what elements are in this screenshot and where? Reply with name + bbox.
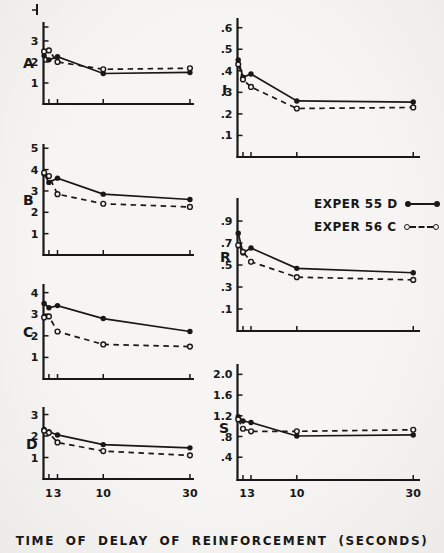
marker-open-circle xyxy=(294,275,299,280)
series-line-exper-56c xyxy=(238,245,413,280)
marker-filled-circle xyxy=(55,432,60,437)
marker-filled-circle xyxy=(187,197,192,202)
marker-open-circle xyxy=(47,174,52,179)
ytick-label: 3 xyxy=(31,409,39,422)
xtick-label: 10 xyxy=(96,487,112,500)
ytick-label: .1 xyxy=(221,303,233,316)
marker-open-circle xyxy=(249,429,254,434)
ytick-label: .2 xyxy=(221,108,233,121)
marker-open-circle xyxy=(411,277,416,282)
legend-sample-solid-line xyxy=(405,201,440,207)
marker-filled-circle xyxy=(248,71,253,76)
ytick-label: 3 xyxy=(31,308,39,321)
marker-open-circle xyxy=(411,105,416,110)
marker-open-circle xyxy=(188,205,193,210)
open-circle-icon xyxy=(433,224,439,230)
marker-open-circle xyxy=(42,428,47,433)
ytick-label: .1 xyxy=(221,129,233,142)
ytick-label: .4 xyxy=(221,451,233,464)
panel-label-D: D xyxy=(26,436,38,452)
panel-B: 12345B xyxy=(23,142,194,256)
marker-open-circle xyxy=(55,329,60,334)
series-line-exper-55d xyxy=(44,303,190,331)
marker-open-circle xyxy=(294,106,299,111)
marker-filled-circle xyxy=(101,191,106,196)
marker-open-circle xyxy=(188,66,193,71)
panel-I: .1.2.3.4.5.6I xyxy=(221,18,420,158)
marker-open-circle xyxy=(249,85,254,90)
ytick-label: 1 xyxy=(31,351,39,364)
marker-open-circle xyxy=(42,170,47,175)
delay-of-reinforcement-charts: 123A12345B1234C123D.1.2.3.4.5.6I.1.3.5.7… xyxy=(0,0,444,553)
series-line-exper-55d xyxy=(44,56,190,74)
legend-item-exper-55d: EXPER 55 D xyxy=(314,195,440,213)
series-line-exper-56c xyxy=(44,173,190,207)
marker-filled-circle xyxy=(101,316,106,321)
marker-filled-circle xyxy=(55,303,60,308)
panel-label-I: I xyxy=(222,82,227,98)
marker-open-circle xyxy=(241,426,246,431)
scanned-figure-page: 123A12345B1234C123D.1.2.3.4.5.6I.1.3.5.7… xyxy=(0,0,444,553)
ytick-label: 2 xyxy=(31,206,39,219)
legend-item-exper-56c: EXPER 56 C xyxy=(314,218,440,236)
marker-open-circle xyxy=(101,342,106,347)
xtick-label: 3 xyxy=(247,487,255,500)
series-line-exper-55d xyxy=(238,417,413,436)
dashed-line-icon xyxy=(410,226,433,228)
marker-filled-circle xyxy=(46,305,51,310)
legend: EXPER 55 D EXPER 56 C xyxy=(314,195,440,241)
marker-open-circle xyxy=(188,344,193,349)
xtick-label: 10 xyxy=(289,487,305,500)
marker-open-circle xyxy=(42,49,47,54)
marker-open-circle xyxy=(42,315,47,320)
panel-S: .4.81.21.62.0S xyxy=(213,364,420,481)
x-axis-caption: TIME OF DELAY OF REINFORCEMENT (SECONDS) xyxy=(0,534,444,548)
xtick-labels-right: 131030 xyxy=(239,487,421,500)
marker-open-circle xyxy=(294,429,299,434)
legend-label-exper-55d: EXPER 55 D xyxy=(314,197,398,211)
marker-filled-circle xyxy=(46,57,51,62)
xtick-labels-left: 131030 xyxy=(45,487,198,500)
marker-filled-circle xyxy=(187,329,192,334)
panel-C: 1234C xyxy=(23,284,194,380)
marker-open-circle xyxy=(236,417,241,422)
series-line-exper-55d xyxy=(238,60,413,102)
series-line-exper-55d xyxy=(44,430,190,448)
ytick-label: 2.0 xyxy=(213,368,233,381)
legend-sample-dashed-line xyxy=(404,224,439,230)
panel-label-A: A xyxy=(23,55,34,71)
marker-filled-circle xyxy=(187,445,192,450)
marker-open-circle xyxy=(101,67,106,72)
xtick-label: 30 xyxy=(406,487,422,500)
panel-A: 123A xyxy=(23,22,194,105)
marker-open-circle xyxy=(55,60,60,65)
marker-filled-circle xyxy=(55,175,60,180)
panel-label-B: B xyxy=(23,192,34,208)
ytick-label: 3 xyxy=(31,35,39,48)
marker-open-circle xyxy=(241,77,246,82)
ytick-label: 4 xyxy=(31,287,39,300)
marker-filled-circle xyxy=(236,230,241,235)
marker-open-circle xyxy=(101,201,106,206)
marker-open-circle xyxy=(47,314,52,319)
ytick-label: 4 xyxy=(31,164,39,177)
xtick-label: 1 xyxy=(45,487,53,500)
marker-filled-circle xyxy=(294,98,299,103)
marker-filled-circle xyxy=(411,432,416,437)
marker-open-circle xyxy=(101,449,106,454)
series-line-exper-56c xyxy=(44,431,190,456)
xtick-label: 1 xyxy=(239,487,247,500)
xtick-label: 3 xyxy=(54,487,62,500)
marker-filled-circle xyxy=(248,420,253,425)
ytick-label: .4 xyxy=(221,65,233,78)
marker-filled-circle xyxy=(294,266,299,271)
marker-filled-circle xyxy=(248,245,253,250)
panel-label-S: S xyxy=(219,420,229,436)
ytick-label: 1 xyxy=(31,77,39,90)
marker-filled-circle xyxy=(41,301,46,306)
marker-open-circle xyxy=(411,427,416,432)
marker-filled-circle xyxy=(411,270,416,275)
ytick-label: 5 xyxy=(31,142,39,155)
marker-open-circle xyxy=(55,440,60,445)
panel-label-R: R xyxy=(220,249,231,265)
